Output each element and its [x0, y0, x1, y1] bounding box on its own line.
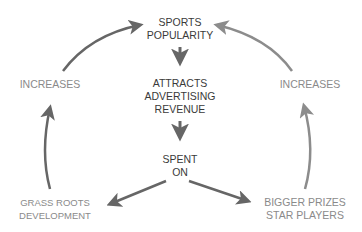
node-advertising-revenue-line3: REVENUE — [125, 103, 235, 116]
node-bigger-prizes: BIGGER PRIZES STAR PLAYERS — [250, 196, 360, 222]
node-increases-left: INCREASES — [10, 78, 90, 91]
arrow-grassroots-to-increases-left — [45, 108, 50, 189]
node-bigger-prizes-line2: STAR PLAYERS — [250, 209, 360, 222]
node-grass-roots: GRASS ROOTS DEVELOPMENT — [5, 197, 105, 222]
arrow-spent-to-grassroots — [110, 181, 166, 204]
arrow-increases-left-to-popularity — [63, 25, 140, 71]
node-spent-on: SPENT ON — [140, 153, 220, 179]
node-advertising-revenue: ATTRACTS ADVERTISING REVENUE — [125, 77, 235, 116]
node-increases-right: INCREASES — [270, 78, 350, 91]
node-bigger-prizes-line1: BIGGER PRIZES — [250, 196, 360, 209]
node-sports-popularity-line2: POPULARITY — [130, 29, 230, 42]
node-sports-popularity: SPORTS POPULARITY — [130, 16, 230, 42]
node-grass-roots-line2: DEVELOPMENT — [5, 210, 105, 223]
node-grass-roots-line1: GRASS ROOTS — [5, 197, 105, 210]
node-increases-right-label: INCREASES — [270, 78, 350, 91]
node-advertising-revenue-line1: ATTRACTS — [125, 77, 235, 90]
node-increases-left-label: INCREASES — [10, 78, 90, 91]
node-sports-popularity-line1: SPORTS — [130, 16, 230, 29]
arrow-spent-to-prizes — [189, 181, 248, 201]
node-advertising-revenue-line2: ADVERTISING — [125, 90, 235, 103]
node-spent-on-line2: ON — [140, 166, 220, 179]
node-spent-on-line1: SPENT — [140, 153, 220, 166]
arrow-prizes-to-increases-right — [304, 106, 310, 189]
